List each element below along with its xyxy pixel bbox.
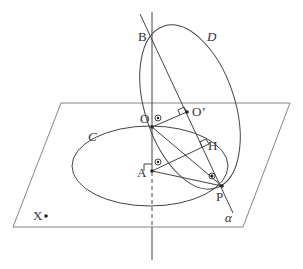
label-b: B	[138, 29, 147, 44]
point-oprime	[185, 110, 189, 114]
segment-a-h	[152, 144, 209, 171]
label-o: O	[140, 111, 149, 126]
label-d: D	[206, 29, 217, 44]
center-marker-op-dot	[211, 175, 214, 178]
center-marker-o-dot	[157, 117, 159, 119]
point-o	[150, 125, 154, 129]
point-p	[220, 184, 224, 188]
label-h: H	[208, 138, 217, 153]
label-o-prime: O’	[192, 104, 206, 119]
point-a	[150, 169, 154, 173]
center-marker-a-dot	[157, 161, 159, 163]
label-c: C	[88, 129, 97, 144]
label-x: X	[33, 208, 43, 223]
geometry-diagram: B D O O’ H C A P X α	[0, 0, 303, 269]
label-a: A	[137, 165, 147, 180]
label-p: P	[216, 189, 223, 204]
point-x	[44, 214, 48, 218]
segment-o-oprime	[152, 112, 187, 127]
label-alpha: α	[225, 210, 233, 225]
